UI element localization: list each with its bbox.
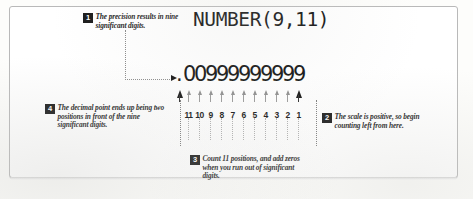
guide-dotted-line [254, 118, 255, 140]
digit-8: 9 [260, 62, 271, 86]
position-guide-3 [271, 118, 282, 140]
position-markers [176, 88, 304, 100]
guide-dotted-line [265, 118, 266, 140]
callout-3: 3Count 11 positions, and add zeros when … [190, 155, 310, 181]
callout-2-badge: 2 [322, 113, 332, 123]
callout-1: 1The precision results in nine significa… [83, 13, 187, 31]
leader-line-vertical [125, 30, 126, 80]
callout-1-text: The precision results in nine significan… [96, 13, 184, 30]
position-marker-2 [194, 90, 205, 102]
guide-dotted-line [221, 118, 222, 140]
marker-stem [210, 95, 211, 102]
callout-2-text: The scale is positive, so begin counting… [335, 113, 445, 130]
position-guide-5 [249, 118, 260, 140]
position-guide-1 [293, 118, 304, 140]
leader-line-horizontal [125, 79, 172, 80]
guide-line-scale-origin [316, 100, 317, 146]
position-guides [176, 118, 304, 140]
guide-dotted-line [210, 118, 211, 140]
marker-stem [199, 95, 200, 102]
figure-page: 1The precision results in nine significa… [0, 0, 473, 199]
digit-2: 0 [194, 62, 205, 86]
digit-3: 9 [205, 62, 216, 86]
guide-spacer [176, 118, 183, 140]
marker-stem [265, 95, 266, 102]
callout-2: 2The scale is positive, so begin countin… [322, 113, 447, 131]
position-labels: 1110987654321 [176, 104, 304, 116]
digit-6: 9 [238, 62, 249, 86]
callout-4-badge: 4 [45, 104, 55, 114]
callout-4: 4The decimal point ends up being two pos… [45, 104, 170, 130]
position-guide-6 [238, 118, 249, 140]
guide-dotted-line [298, 118, 299, 140]
digit-9: 9 [271, 62, 282, 86]
position-marker-3 [205, 90, 216, 102]
position-guide-9 [205, 118, 216, 140]
position-guide-8 [216, 118, 227, 140]
position-marker-7 [249, 90, 260, 102]
marker-stem [243, 95, 244, 102]
digit-7: 9 [249, 62, 260, 86]
callout-3-badge: 3 [190, 155, 200, 165]
position-marker-4 [216, 90, 227, 102]
position-marker-11 [293, 90, 304, 102]
marker-stem [254, 95, 255, 102]
position-marker-5 [227, 90, 238, 102]
position-marker-1 [183, 90, 194, 102]
digit-11: 9 [293, 62, 304, 86]
position-marker-9 [271, 90, 282, 102]
position-guide-11 [183, 118, 194, 140]
callout-1-badge: 1 [83, 13, 93, 23]
position-marker-10 [282, 90, 293, 102]
position-marker-8 [260, 90, 271, 102]
digit-1: 0 [183, 62, 194, 86]
marker-stem [276, 95, 277, 102]
marker-stem [298, 95, 299, 102]
guide-dotted-line [243, 118, 244, 140]
guide-dotted-line [276, 118, 277, 140]
position-guide-4 [260, 118, 271, 140]
marker-stem [287, 95, 288, 102]
callout-4-text: The decimal point ends up being two posi… [58, 104, 168, 130]
position-guide-10 [194, 118, 205, 140]
digit-4: 9 [216, 62, 227, 86]
position-marker-6 [238, 90, 249, 102]
guide-dotted-line [199, 118, 200, 140]
digit-10: 9 [282, 62, 293, 86]
code-title: NUMBER(9,11) [193, 8, 329, 31]
decimal-point: . [176, 62, 183, 86]
position-guide-7 [227, 118, 238, 140]
marker-stem [232, 95, 233, 102]
guide-dotted-line [188, 118, 189, 140]
digit-5: 9 [227, 62, 238, 86]
guide-dotted-line [232, 118, 233, 140]
marker-stem [221, 95, 222, 102]
callout-3-text: Count 11 positions, and add zeros when y… [203, 155, 307, 181]
position-guide-2 [282, 118, 293, 140]
guide-dotted-line [287, 118, 288, 140]
marker-stem [188, 95, 189, 102]
